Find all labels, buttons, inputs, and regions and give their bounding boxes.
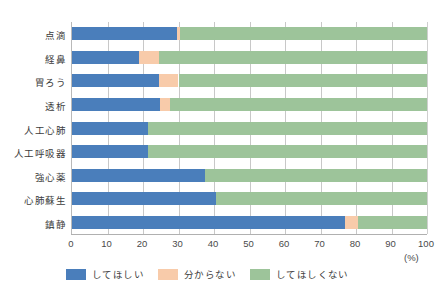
bar-segment	[72, 51, 139, 64]
category-label: 経鼻	[0, 52, 66, 66]
bar-row	[72, 27, 427, 40]
bar-segment	[345, 216, 357, 229]
bar-rows	[72, 22, 427, 234]
bar-segment	[205, 169, 427, 182]
bar-segment	[148, 145, 427, 158]
legend-item[interactable]: してほしくない	[250, 267, 349, 281]
bar-row	[72, 192, 427, 205]
x-tick-label: 0	[68, 238, 73, 249]
category-label: 強心薬	[0, 170, 66, 184]
x-tick-label: 80	[350, 238, 361, 249]
bar-segment	[72, 27, 177, 40]
bar-segment	[72, 192, 216, 205]
plot-area	[71, 22, 428, 234]
bar-row	[72, 216, 427, 229]
bar-segment	[148, 122, 427, 135]
category-label: 心肺蘇生	[0, 193, 66, 207]
bar-row	[72, 98, 427, 111]
x-tick-label: 10	[101, 238, 112, 249]
bar-segment	[72, 169, 205, 182]
bar-segment	[139, 51, 159, 64]
legend-swatch-icon	[66, 269, 86, 280]
legend-swatch-icon	[158, 269, 178, 280]
category-label: 人工呼吸器	[0, 146, 66, 160]
legend-item[interactable]: 分からない	[158, 267, 236, 281]
bar-segment	[72, 98, 160, 111]
x-axis-ticks: 0102030405060708090100	[71, 238, 426, 252]
bar-row	[72, 51, 427, 64]
legend-label: してほしい	[92, 267, 144, 281]
category-axis-labels: 点滴経鼻胃ろう透析人工心肺人工呼吸器強心薬心肺蘇生鎮静	[0, 22, 66, 234]
bar-segment	[160, 98, 170, 111]
x-axis-line	[71, 234, 427, 235]
legend-label: 分からない	[184, 267, 236, 281]
bar-segment	[72, 216, 345, 229]
category-label: 人工心肺	[0, 123, 66, 137]
category-label: 鎮静	[0, 217, 66, 231]
category-label: 透析	[0, 99, 66, 113]
x-tick-label: 90	[385, 238, 396, 249]
bar-segment	[216, 192, 427, 205]
x-axis-unit-label: (%)	[404, 252, 419, 263]
bar-segment	[72, 74, 159, 87]
x-tick-label: 70	[314, 238, 325, 249]
x-tick-label: 50	[243, 238, 254, 249]
bar-segment	[72, 122, 148, 135]
x-tick-label: 40	[208, 238, 219, 249]
bar-segment	[159, 74, 179, 87]
bar-segment	[159, 51, 427, 64]
bar-segment	[170, 98, 427, 111]
x-tick-label: 30	[172, 238, 183, 249]
bar-segment	[358, 216, 427, 229]
category-label: 点滴	[0, 28, 66, 42]
x-tick-label: 20	[137, 238, 148, 249]
chart-legend: してほしい分からないしてほしくない	[66, 267, 349, 281]
bar-row	[72, 74, 427, 87]
legend-item[interactable]: してほしい	[66, 267, 144, 281]
bar-row	[72, 169, 427, 182]
stacked-bar-chart: 点滴経鼻胃ろう透析人工心肺人工呼吸器強心薬心肺蘇生鎮静 010203040506…	[0, 0, 443, 299]
x-tick-label: 100	[418, 238, 434, 249]
bar-segment	[180, 27, 427, 40]
bar-row	[72, 122, 427, 135]
bar-segment	[179, 74, 428, 87]
legend-swatch-icon	[250, 269, 270, 280]
bar-segment	[72, 145, 148, 158]
category-label: 胃ろう	[0, 75, 66, 89]
x-tick-label: 60	[279, 238, 290, 249]
bar-row	[72, 145, 427, 158]
legend-label: してほしくない	[276, 267, 349, 281]
